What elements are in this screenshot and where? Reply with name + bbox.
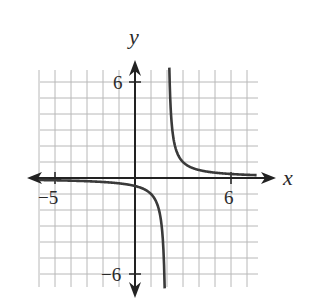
curve-right-branch (169, 68, 256, 176)
y-axis-label: y (127, 24, 139, 49)
y-tick-label-neg6: −6 (101, 264, 121, 285)
x-tick-label-6: 6 (224, 187, 234, 208)
x-tick-label-neg5: −5 (38, 187, 58, 208)
y-tick-label-6: 6 (113, 72, 123, 93)
x-axis-label: x (282, 165, 293, 190)
rational-function-graph: y x −5 6 6 −6 (0, 0, 310, 305)
